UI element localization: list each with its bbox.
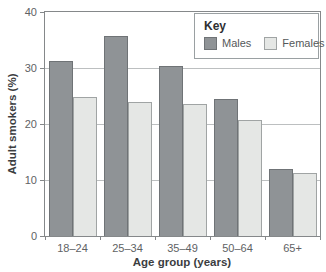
females-swatch-icon	[264, 37, 277, 50]
bar-females-65+	[293, 173, 317, 236]
legend: Key Males Females	[194, 13, 319, 59]
legend-title: Key	[204, 19, 309, 33]
y-tick-30	[40, 68, 44, 69]
x-category-label: 25–34	[112, 243, 143, 254]
y-tick-label-10: 10	[25, 175, 37, 186]
legend-label-females: Females	[282, 38, 324, 49]
x-axis-title: Age group (years)	[133, 256, 231, 268]
males-swatch-icon	[204, 37, 217, 50]
x-tick-5	[320, 236, 321, 240]
legend-item-females: Females	[264, 37, 324, 50]
bar-females-50–64	[238, 120, 262, 236]
bar-males-18–24	[49, 61, 73, 236]
y-tick-label-20: 20	[25, 119, 37, 130]
x-tick-0	[45, 236, 46, 240]
x-category-label: 18–24	[57, 243, 88, 254]
bar-chart: Adult smokers (%) 01020304018–2425–3435–…	[0, 0, 326, 272]
bar-males-35–49	[159, 66, 183, 236]
legend-item-males: Males	[204, 37, 251, 50]
x-category-label: 50–64	[222, 243, 253, 254]
y-tick-label-40: 40	[25, 7, 37, 18]
bar-females-25–34	[128, 102, 152, 236]
y-tick-40	[40, 12, 44, 13]
bar-males-65+	[269, 169, 293, 236]
y-tick-0	[40, 236, 44, 237]
x-category-label: 35–49	[167, 243, 198, 254]
bar-group-25–34	[100, 12, 155, 236]
y-axis-title: Adult smokers (%)	[6, 74, 18, 175]
y-tick-10	[40, 180, 44, 181]
legend-label-males: Males	[222, 38, 251, 49]
bar-females-18–24	[73, 97, 97, 236]
x-tick-1	[100, 236, 101, 240]
y-tick-20	[40, 124, 44, 125]
bar-group-18–24	[45, 12, 100, 236]
x-tick-2	[155, 236, 156, 240]
x-tick-4	[265, 236, 266, 240]
bar-females-35–49	[183, 104, 207, 236]
legend-items: Males Females	[204, 37, 309, 50]
bar-males-50–64	[214, 99, 238, 236]
bar-males-25–34	[104, 36, 128, 236]
y-tick-label-30: 30	[25, 63, 37, 74]
y-tick-label-0: 0	[31, 231, 37, 242]
x-category-label: 65+	[283, 243, 302, 254]
x-tick-3	[210, 236, 211, 240]
